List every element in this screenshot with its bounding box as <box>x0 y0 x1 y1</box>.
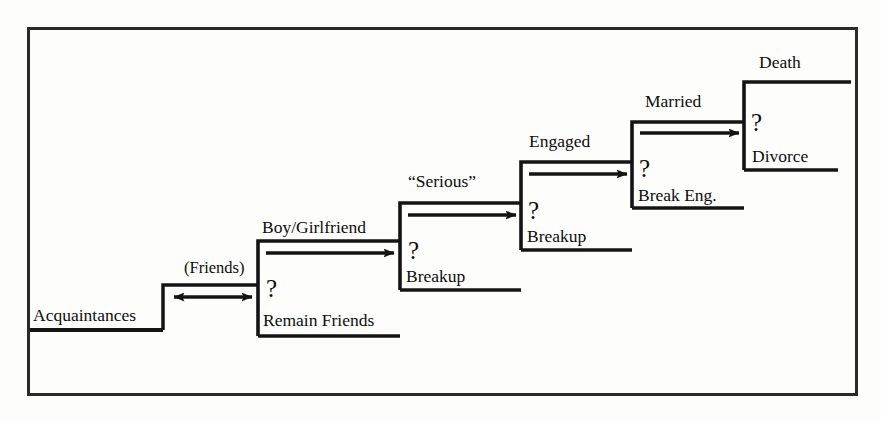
label-remain-friends: Remain Friends <box>263 312 374 330</box>
staircase-diagram-svg <box>0 0 881 422</box>
branch-question-serious: ? <box>408 238 419 263</box>
label-serious: “Serious” <box>408 173 476 191</box>
label-breakup-1: Breakup <box>406 268 465 286</box>
riser-acquaintances-to-boygirlfriend <box>163 285 258 330</box>
branch-question-death: ? <box>751 110 762 135</box>
outer-frame <box>29 29 857 395</box>
label-break-eng: Break Eng. <box>638 187 717 205</box>
label-acquaintances: Acquaintances <box>33 307 136 325</box>
branch-question-boygirlfriend: ? <box>266 276 277 301</box>
label-friends: (Friends) <box>184 260 245 277</box>
label-death: Death <box>759 54 801 72</box>
branch-question-engaged: ? <box>528 198 539 223</box>
label-breakup-2: Breakup <box>527 228 586 246</box>
label-boy-girlfriend: Boy/Girlfriend <box>262 219 366 237</box>
diagram-page: Acquaintances (Friends) Boy/Girlfriend ?… <box>0 0 881 422</box>
label-divorce: Divorce <box>752 148 808 166</box>
branch-question-married: ? <box>639 156 650 181</box>
label-married: Married <box>645 93 701 111</box>
label-engaged: Engaged <box>529 133 590 151</box>
